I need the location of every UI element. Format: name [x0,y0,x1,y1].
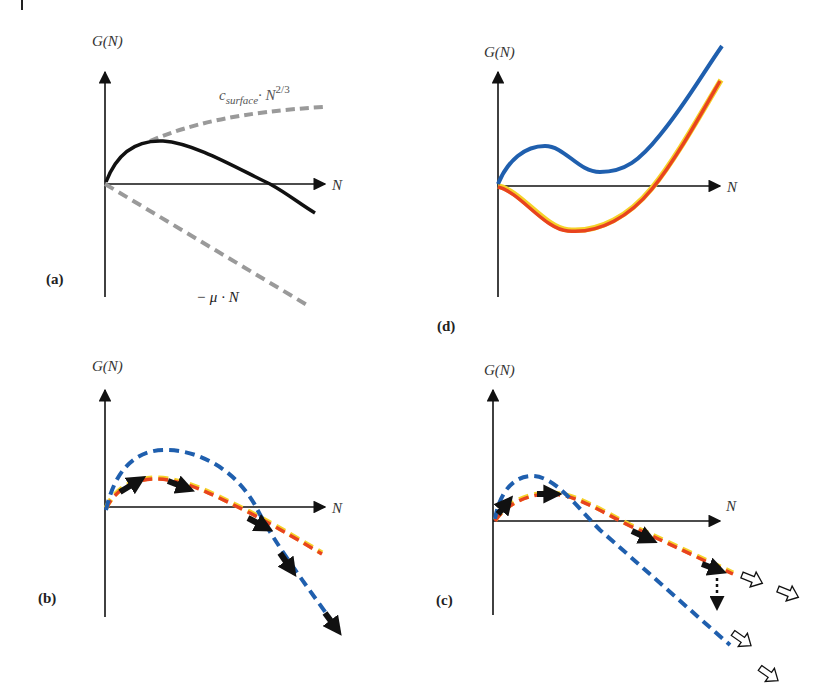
x-axis-label: N [331,177,343,193]
open-arrow-icon [755,661,782,687]
y-axis-label: G(N) [92,358,123,375]
y-axis-label: G(N) [92,33,123,50]
blue-dashed-curve [106,450,338,630]
red-dashed-curve-edge [495,493,733,573]
x-axis-label: N [725,498,737,514]
open-arrow-icon [775,582,801,605]
panel-c: G(N) N (c) [436,362,801,687]
volume-term-curve [105,184,307,305]
path-arrow [498,503,507,514]
open-arrow-icon [739,568,765,591]
x-axis-label: N [331,500,343,516]
red-dashed-curve-edge [106,478,322,553]
panel-label: (d) [437,318,455,335]
red-dashed-curve [495,494,733,574]
panel-label: (a) [46,271,64,288]
panel-b: G(N) N (b) [38,358,343,630]
panel-label: (c) [436,592,453,609]
y-axis-label: G(N) [484,44,515,61]
blue-dashed-curve [495,476,730,645]
panel-a: G(N) N (a) csurface· N2/3 − μ · N [46,33,343,305]
path-arrow [325,613,336,628]
blue-curve [498,46,722,184]
open-arrow-icon [728,626,755,652]
figure-canvas: G(N) N (a) csurface· N2/3 − μ · N G(N) N… [0,0,830,694]
x-axis-label: N [726,179,738,195]
red-curve [498,81,720,231]
panel-d: G(N) N (d) [437,44,738,335]
red-dashed-curve [106,479,322,554]
panel-label: (b) [38,590,56,607]
surface-term-label: csurface· N2/3 [219,83,290,106]
volume-term-label: − μ · N [196,289,240,305]
surface-term-curve [150,107,323,141]
y-axis-label: G(N) [484,362,515,379]
